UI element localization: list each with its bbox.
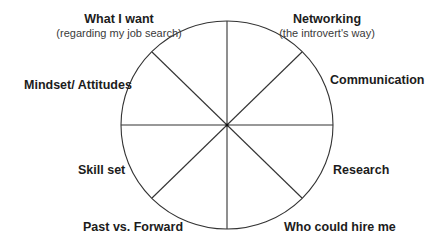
label-who-could-hire-me: Who could hire me — [284, 220, 396, 234]
sublabel-what-i-want: (regarding my job search) — [44, 27, 194, 40]
label-networking: Networking — [277, 12, 377, 26]
label-skill-set: Skill set — [78, 163, 125, 177]
label-mindset-attitudes: Mindset/ Attitudes — [24, 78, 132, 92]
label-research: Research — [333, 163, 389, 177]
sublabel-networking: (the introvert's way) — [272, 27, 382, 40]
label-communication: Communication — [330, 73, 424, 87]
label-past-vs-forward: Past vs. Forward — [83, 220, 183, 234]
label-what-i-want: What I want — [74, 12, 164, 26]
wheel-center-dot — [226, 124, 229, 127]
